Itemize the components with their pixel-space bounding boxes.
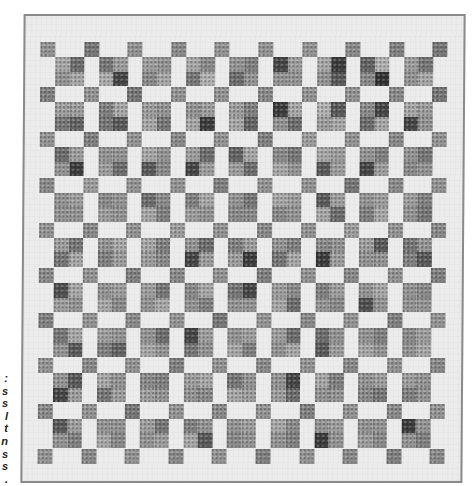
four-patch-square xyxy=(314,419,329,434)
corner-square xyxy=(170,223,185,238)
four-patch-square xyxy=(53,373,68,388)
corner-square xyxy=(432,87,447,102)
corner-square xyxy=(345,87,360,102)
four-patch-square xyxy=(242,373,257,388)
four-patch-square xyxy=(373,388,388,403)
four-patch-square xyxy=(271,388,286,403)
quilt-photo xyxy=(20,14,465,483)
four-patch-square xyxy=(156,238,171,253)
corner-square xyxy=(301,178,316,193)
four-patch-square xyxy=(285,419,300,434)
four-patch-square xyxy=(97,283,112,298)
four-patch-square xyxy=(403,193,418,208)
four-patch-square xyxy=(141,193,156,208)
four-patch-square xyxy=(404,102,419,117)
four-patch-square xyxy=(186,72,201,87)
four-patch-square xyxy=(404,57,419,72)
corner-square xyxy=(125,404,140,419)
four-patch-square xyxy=(97,252,112,267)
four-patch-square xyxy=(375,57,390,72)
four-patch-square xyxy=(199,283,214,298)
corner-square xyxy=(38,404,53,419)
four-patch-square xyxy=(317,57,332,72)
four-patch-square xyxy=(53,343,68,358)
four-patch-square xyxy=(418,162,433,177)
four-patch-square xyxy=(113,57,128,72)
four-patch-square xyxy=(417,238,432,253)
four-patch-square xyxy=(402,373,417,388)
four-patch-square xyxy=(316,207,331,222)
corner-square xyxy=(40,132,55,147)
four-patch-square xyxy=(315,373,330,388)
caption-line-fragment: s xyxy=(0,397,8,410)
four-patch-square xyxy=(273,72,288,87)
corner-square xyxy=(300,313,315,328)
four-patch-square xyxy=(243,162,258,177)
four-patch-square xyxy=(331,72,346,87)
four-patch-square xyxy=(287,102,302,117)
four-patch-square xyxy=(404,117,419,132)
four-patch-square xyxy=(417,343,432,358)
corner-square xyxy=(125,358,140,373)
caption-line-fragment: t xyxy=(0,422,8,435)
four-patch-square xyxy=(272,193,287,208)
four-patch-square xyxy=(402,328,417,343)
four-patch-square xyxy=(98,207,113,222)
four-patch-square xyxy=(54,252,69,267)
four-patch-square xyxy=(360,117,375,132)
four-patch-square xyxy=(329,373,344,388)
four-patch-square xyxy=(374,238,389,253)
corner-square xyxy=(127,178,142,193)
four-patch-square xyxy=(185,207,200,222)
four-patch-square xyxy=(111,343,126,358)
four-patch-square xyxy=(285,433,300,448)
four-patch-square xyxy=(111,433,126,448)
four-patch-square xyxy=(69,162,84,177)
four-patch-square xyxy=(140,388,155,403)
four-patch-square xyxy=(140,433,155,448)
four-patch-square xyxy=(185,162,200,177)
four-patch-square xyxy=(54,238,69,253)
four-patch-square xyxy=(358,373,373,388)
four-patch-square xyxy=(287,207,302,222)
four-patch-square xyxy=(359,193,374,208)
four-patch-square xyxy=(68,298,83,313)
corner-square xyxy=(37,449,52,464)
corner-square xyxy=(387,313,402,328)
corner-square xyxy=(300,268,315,283)
corner-square xyxy=(431,223,446,238)
four-patch-square xyxy=(374,147,389,162)
four-patch-square xyxy=(272,238,287,253)
four-patch-square xyxy=(69,102,84,117)
four-patch-square xyxy=(375,102,390,117)
four-patch-square xyxy=(230,72,245,87)
four-patch-square xyxy=(403,207,418,222)
four-patch-square xyxy=(68,283,83,298)
four-patch-square xyxy=(272,298,287,313)
corner-square xyxy=(38,313,53,328)
corner-square xyxy=(389,42,404,57)
four-patch-square xyxy=(374,207,389,222)
four-patch-square xyxy=(184,298,199,313)
four-patch-square xyxy=(228,298,243,313)
four-patch-square xyxy=(372,433,387,448)
four-patch-square xyxy=(198,419,213,434)
four-patch-square xyxy=(359,238,374,253)
corner-square xyxy=(255,449,270,464)
four-patch-square xyxy=(402,343,417,358)
four-patch-square xyxy=(360,102,375,117)
four-patch-square xyxy=(142,117,157,132)
corner-square xyxy=(299,404,314,419)
four-patch-square xyxy=(98,147,113,162)
corner-square xyxy=(171,87,186,102)
four-patch-square xyxy=(200,117,215,132)
four-patch-square xyxy=(97,373,112,388)
four-patch-square xyxy=(54,193,69,208)
corner-square xyxy=(258,87,273,102)
corner-square xyxy=(125,449,140,464)
corner-square xyxy=(343,404,358,419)
four-patch-square xyxy=(330,283,345,298)
four-patch-square xyxy=(359,298,374,313)
four-patch-square xyxy=(315,328,330,343)
corner-square xyxy=(39,268,54,283)
